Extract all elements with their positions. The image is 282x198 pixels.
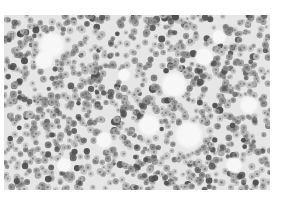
image-frame: Densely packed round cell micrograph [0,0,282,198]
micrograph-image [4,15,270,190]
cell-texture [4,15,270,190]
